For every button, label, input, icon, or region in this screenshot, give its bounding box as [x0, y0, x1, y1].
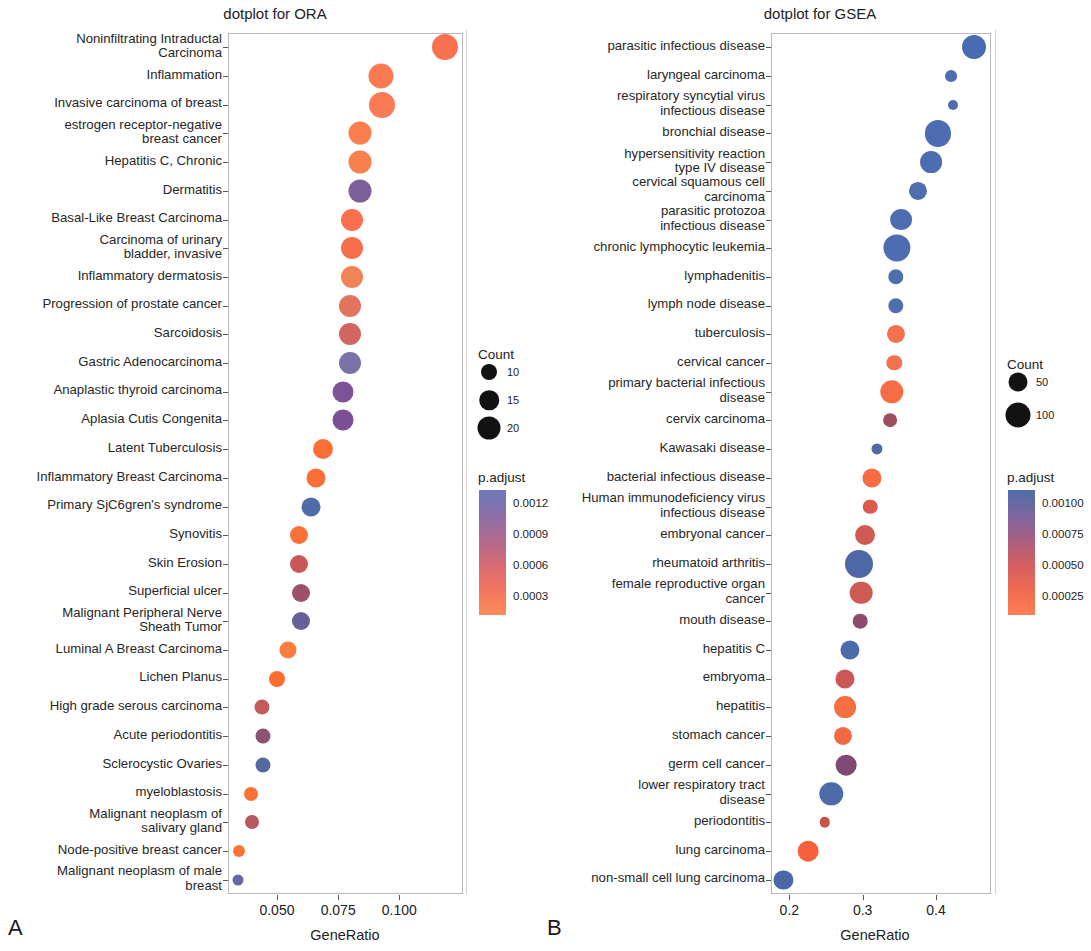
- axis-tick: [766, 191, 771, 192]
- axis-category-label: Inflammatory Breast Carcinoma: [6, 470, 222, 485]
- axis-category-label: myeloblastosis: [6, 785, 222, 800]
- axis-category-label: lower respiratory tract disease: [551, 778, 765, 807]
- axis-category-label: tuberculosis: [551, 326, 765, 341]
- axis-category-label: non-small cell lung carcinoma: [551, 871, 765, 886]
- axis-tick: [223, 507, 228, 508]
- data-point: [339, 295, 361, 317]
- axis-category-label: Sarcoidosis: [6, 326, 222, 341]
- data-point: [925, 120, 951, 146]
- count-legend-label: 20: [507, 422, 519, 434]
- axis-tick: [766, 880, 771, 881]
- axis-category-label: hypersensitivity reaction type IV diseas…: [551, 147, 765, 176]
- axis-tick: [789, 895, 790, 900]
- data-point: [255, 700, 270, 715]
- panel-b-letter: B: [547, 915, 562, 941]
- axis-tick: [766, 822, 771, 823]
- axis-tick: [223, 277, 228, 278]
- axis-tick: [936, 895, 937, 900]
- padjust-legend-label: 0.00025: [1042, 590, 1084, 602]
- axis-tick: [766, 162, 771, 163]
- axis-category-label: Gastric Adenocarcinoma: [6, 355, 222, 370]
- gsea-padjust-colorbar: [1008, 490, 1035, 615]
- axis-tick: [766, 535, 771, 536]
- axis-category-label: Luminal A Breast Carcinoma: [6, 642, 222, 657]
- axis-tick: [223, 535, 228, 536]
- gsea-count-legend-title: Count: [1007, 357, 1043, 372]
- axis-tick: [766, 248, 771, 249]
- panel-gsea: dotplot for GSEA parasitic infectious di…: [545, 0, 1091, 951]
- axis-category-label: mouth disease: [551, 613, 765, 628]
- data-point: [339, 352, 361, 374]
- axis-tick: [766, 449, 771, 450]
- axis-tick: [223, 593, 228, 594]
- panel-a-letter: A: [8, 915, 23, 941]
- axis-category-label: Inflammation: [6, 68, 222, 83]
- gsea-x-axis-title: GeneRatio: [795, 927, 955, 943]
- axis-tick: [766, 650, 771, 651]
- data-point: [883, 414, 897, 428]
- axis-category-label: Lichen Planus: [6, 670, 222, 685]
- axis-tick: [223, 880, 228, 881]
- axis-category-label: Latent Tuberculosis: [6, 441, 222, 456]
- axis-tick: [766, 736, 771, 737]
- figure-root: dotplot for ORA Noninfiltrating Intraduc…: [0, 0, 1091, 951]
- axis-category-label: laryngeal carcinoma: [551, 68, 765, 83]
- axis-category-label: Carcinoma of urinary bladder, invasive: [6, 233, 222, 262]
- data-point: [302, 497, 321, 516]
- axis-tick: [766, 47, 771, 48]
- axis-tick: [223, 363, 228, 364]
- axis-tick: [223, 851, 228, 852]
- axis-tick: [766, 621, 771, 622]
- axis-category-label: Inflammatory dermatosis: [6, 269, 222, 284]
- panel-ora: dotplot for ORA Noninfiltrating Intraduc…: [0, 0, 560, 951]
- axis-tick: [766, 306, 771, 307]
- padjust-legend-label: 0.0012: [513, 497, 548, 509]
- count-legend-dot: [481, 364, 497, 380]
- axis-tick: [223, 564, 228, 565]
- axis-tick-label: 0.075: [321, 902, 356, 918]
- axis-tick: [766, 334, 771, 335]
- data-point: [233, 845, 245, 857]
- axis-category-label: Synovitis: [6, 527, 222, 542]
- axis-tick: [766, 420, 771, 421]
- axis-category-label: rheumatoid arthritis: [551, 556, 765, 571]
- axis-category-label: Malignant neoplasm of male breast: [6, 864, 222, 893]
- axis-category-label: Node-positive breast cancer: [6, 843, 222, 858]
- axis-category-label: Dermatitis: [6, 183, 222, 198]
- axis-category-label: germ cell cancer: [551, 757, 765, 772]
- axis-category-label: respiratory syncytial virus infectious d…: [551, 89, 765, 118]
- axis-category-label: Malignant neoplasm of salivary gland: [6, 807, 222, 836]
- axis-category-label: bronchial disease: [551, 125, 765, 140]
- axis-tick: [277, 895, 278, 900]
- count-legend-label: 50: [1036, 376, 1048, 388]
- data-point: [835, 754, 856, 775]
- data-point: [948, 100, 958, 110]
- axis-tick: [223, 794, 228, 795]
- axis-category-label: cervical squamous cell carcinoma: [551, 175, 765, 204]
- axis-category-label: Sclerocystic Ovaries: [6, 757, 222, 772]
- axis-category-label: cervix carcinoma: [551, 412, 765, 427]
- count-legend-label: 100: [1036, 409, 1054, 421]
- data-point: [279, 642, 296, 659]
- axis-category-label: Acute periodontitis: [6, 728, 222, 743]
- data-point: [798, 841, 819, 862]
- data-point: [850, 581, 873, 604]
- gsea-plot-area: [771, 33, 991, 894]
- axis-category-label: chronic lymphocytic leukemia: [551, 240, 765, 255]
- data-point: [269, 671, 285, 687]
- axis-tick: [223, 334, 228, 335]
- axis-tick: [223, 449, 228, 450]
- data-point: [232, 874, 243, 885]
- axis-tick-label: 0.050: [259, 902, 294, 918]
- axis-tick-label: 0.100: [382, 902, 417, 918]
- ora-padjust-colorbar: [479, 490, 506, 615]
- axis-tick: [863, 895, 864, 900]
- axis-tick: [766, 76, 771, 77]
- axis-tick: [223, 621, 228, 622]
- padjust-legend-label: 0.00050: [1042, 559, 1084, 571]
- gsea-legend-divider: [995, 30, 996, 894]
- axis-category-label: cervical cancer: [551, 355, 765, 370]
- count-legend-label: 15: [507, 394, 519, 406]
- data-point: [341, 237, 363, 259]
- axis-category-label: embryonal cancer: [551, 527, 765, 542]
